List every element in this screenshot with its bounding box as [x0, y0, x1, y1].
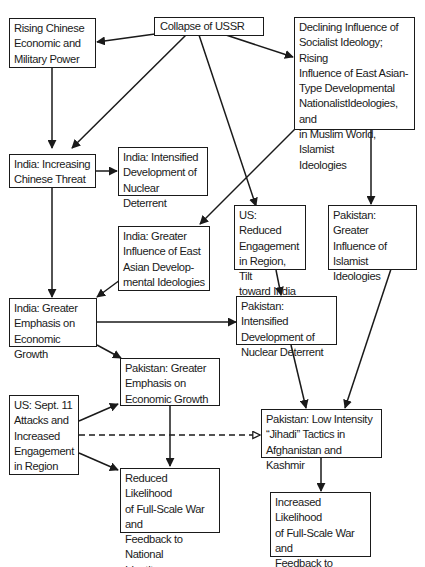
node-increased-likelihood-war: Increased Likelihood of Full-Scale War a… [270, 492, 371, 557]
node-rising-chinese-power: Rising Chinese Economic and Military Pow… [9, 18, 96, 68]
node-india-east-asian-ideologies: India: Greater Influence of East Asian D… [118, 226, 210, 291]
node-pakistan-economic-growth: Pakistan: Greater Emphasis on Economic G… [120, 358, 220, 406]
edge-sept11-to-reduced-war [79, 453, 118, 470]
diagram-canvas: Collapse of USSR Rising Chinese Economic… [0, 0, 425, 567]
node-us-reduced-engagement: US: Reduced Engagement in Region, Tilt t… [234, 205, 306, 270]
node-us-sept11-attacks: US: Sept. 11 Attacks and Increased Engag… [9, 395, 79, 475]
edge-collapse-to-rising-chinese [97, 34, 155, 42]
node-collapse-ussr: Collapse of USSR [154, 17, 264, 36]
edge-collapse-to-declining [226, 35, 293, 57]
edge-india-growth-to-pakistan-growth [97, 345, 121, 358]
node-india-economic-growth: India: Greater Emphasis on Economic Grow… [9, 298, 97, 347]
node-reduced-likelihood-war: Reduced Likelihood of Full-Scale War and… [120, 468, 220, 533]
node-pakistan-jihadi-tactics: Pakistan: Low Intensity “Jihadi” Tactics… [261, 409, 382, 458]
node-pakistan-islamist-ideologies: Pakistan: Greater Influence of Islamist … [328, 205, 417, 270]
node-pakistan-nuclear-deterrent: Pakistan: Intensified Development of Nuc… [236, 296, 337, 345]
edge-india-east-asian-to-india-growth [97, 280, 120, 297]
edge-pakistan-islamist-to-jihadi [345, 269, 391, 408]
node-india-chinese-threat: India: Increasing Chinese Threat [9, 154, 96, 188]
edge-sept11-to-pakistan-growth [79, 404, 118, 421]
node-declining-socialist-ideology: Declining Influence of Socialist Ideolog… [294, 17, 415, 130]
node-india-nuclear-deterrent: India: Intensified Development of Nuclea… [118, 147, 208, 196]
